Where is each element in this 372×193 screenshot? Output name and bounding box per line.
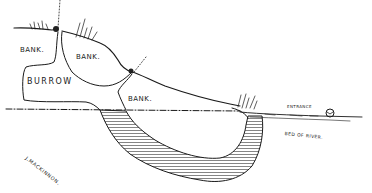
label-bank-lower: BANK. (128, 95, 152, 103)
grass-tufts-top (30, 19, 97, 40)
label-burrow: BURROW (27, 77, 73, 86)
label-bank-middle: BANK. (76, 53, 100, 61)
lower-bank-outline (118, 74, 132, 110)
underwater-tunnel (100, 110, 263, 181)
river-surface-line-2 (250, 117, 350, 121)
ground-surface-line (14, 28, 240, 106)
bank-slope-lower (232, 108, 248, 118)
label-bank-upper-left: BANK. (20, 46, 44, 54)
vertical-dotted-line-2 (134, 57, 146, 72)
diagram-drawing (0, 0, 372, 193)
opening-top (53, 26, 59, 32)
grass-tufts-entrance (238, 94, 257, 109)
label-entrance: ENTRANCE (287, 104, 312, 109)
vertical-dotted-line-1 (58, 0, 60, 28)
